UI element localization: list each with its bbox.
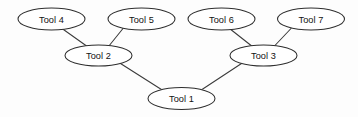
tool-dependency-graph: Tool 1Tool 2Tool 3Tool 4Tool 5Tool 6Tool… xyxy=(0,0,358,117)
edge-tool6-tool3 xyxy=(230,29,254,48)
node-label-tool1: Tool 1 xyxy=(169,94,194,104)
nodes-layer: Tool 1Tool 2Tool 3Tool 4Tool 5Tool 6Tool… xyxy=(18,8,345,110)
node-tool1[interactable]: Tool 1 xyxy=(148,88,215,110)
node-tool6[interactable]: Tool 6 xyxy=(188,8,255,30)
node-tool7[interactable]: Tool 7 xyxy=(278,8,345,30)
node-label-tool2: Tool 2 xyxy=(86,51,111,61)
node-tool3[interactable]: Tool 3 xyxy=(230,45,297,66)
node-tool5[interactable]: Tool 5 xyxy=(108,8,175,30)
edge-tool7-tool3 xyxy=(274,29,291,47)
node-tool4[interactable]: Tool 4 xyxy=(18,8,85,30)
node-label-tool5: Tool 5 xyxy=(129,15,154,25)
node-label-tool3: Tool 3 xyxy=(251,51,276,61)
edge-tool4-tool2 xyxy=(62,29,88,48)
edge-tool5-tool2 xyxy=(109,29,124,47)
node-label-tool4: Tool 4 xyxy=(39,15,64,25)
node-label-tool6: Tool 6 xyxy=(209,15,234,25)
edge-tool3-tool1 xyxy=(201,64,242,91)
diagram-canvas: Tool 1Tool 2Tool 3Tool 4Tool 5Tool 6Tool… xyxy=(0,0,358,117)
edge-tool2-tool1 xyxy=(121,64,164,91)
node-label-tool7: Tool 7 xyxy=(298,15,323,25)
node-tool2[interactable]: Tool 2 xyxy=(65,45,132,66)
